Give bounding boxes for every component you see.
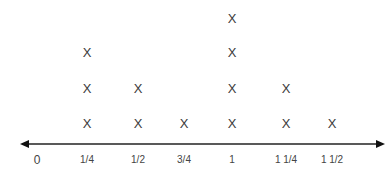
left-arrow-icon [20,140,29,148]
x-mark: X [80,46,94,59]
x-mark: X [131,82,145,95]
right-arrow-icon [376,140,385,148]
x-mark: X [225,82,239,95]
tick-label: 1/2 [131,154,145,166]
x-mark: X [80,117,94,130]
tick-label: 3/4 [177,154,191,166]
x-mark: X [279,82,293,95]
x-mark: X [131,117,145,130]
x-mark: X [225,117,239,130]
tick-label: 1 [229,154,235,166]
line-plot: 01/41/23/411 1/41 1/2 XXXXXXXXXXXXX [0,0,391,182]
x-mark: X [225,12,239,25]
x-mark: X [177,117,191,130]
x-mark: X [325,117,339,130]
tick-label: 1/4 [80,154,94,166]
tick-label: 1 1/4 [275,154,297,166]
tick-label: 1 1/2 [321,154,343,166]
x-mark: X [80,82,94,95]
tick-label: 0 [34,154,41,166]
x-mark: X [279,117,293,130]
x-mark: X [225,46,239,59]
